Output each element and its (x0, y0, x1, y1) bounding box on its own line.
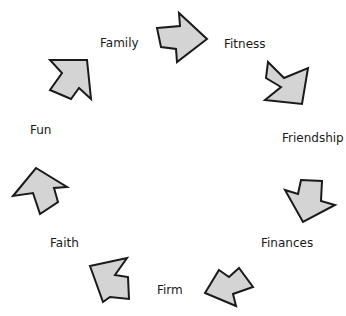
label-finances: Finances (261, 236, 313, 250)
arrow-faith-to-fun (13, 168, 67, 214)
label-firm: Firm (157, 283, 183, 297)
arrow-firm-to-faith (90, 258, 129, 302)
label-family: Family (100, 36, 139, 50)
arrow-family-to-fitness (157, 13, 207, 62)
arrow-friendship-to-finances (285, 180, 335, 222)
cycle-diagram (0, 0, 346, 316)
label-friendship: Friendship (282, 131, 344, 145)
label-faith: Faith (50, 236, 79, 250)
label-fun: Fun (30, 123, 51, 137)
label-fitness: Fitness (224, 37, 266, 51)
arrow-fitness-to-friendship (265, 62, 308, 104)
arrow-finances-to-firm (205, 268, 253, 306)
arrow-fun-to-family (50, 60, 91, 99)
